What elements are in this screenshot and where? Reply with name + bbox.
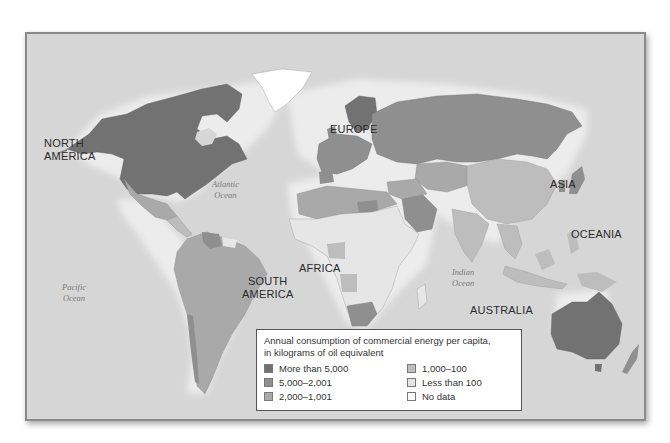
legend-label: 1,000–100 — [422, 363, 467, 374]
label-atlantic-line2: Ocean — [212, 190, 239, 201]
region-madagascar — [417, 284, 427, 309]
label-indian-ocean: Indian Ocean — [452, 267, 474, 289]
label-north-america-line1: NORTH — [44, 137, 96, 150]
region-nigeria — [327, 242, 345, 259]
region-new-zealand — [622, 344, 639, 374]
label-asia: ASIA — [550, 178, 576, 191]
label-europe: EUROPE — [330, 123, 378, 136]
legend-title-line1: Annual consumption of commercial energy … — [264, 335, 514, 347]
legend-item: Less than 100 — [407, 377, 517, 388]
label-indian-line2: Ocean — [452, 278, 474, 289]
legend-swatch — [407, 392, 416, 401]
legend-label: 5,000–2,001 — [279, 377, 332, 388]
label-indian-line1: Indian — [452, 267, 474, 278]
legend-item: More than 5,000 — [264, 363, 407, 374]
legend-swatch — [264, 364, 273, 373]
label-atlantic-ocean: Atlantic Ocean — [212, 179, 239, 201]
legend-item: 5,000–2,001 — [264, 377, 407, 388]
region-south-america — [174, 232, 267, 394]
label-north-america: NORTH AMERICA — [44, 137, 96, 163]
legend-title: Annual consumption of commercial energy … — [264, 335, 514, 358]
label-oceania: OCEANIA — [571, 228, 622, 241]
legend-items: More than 5,0001,000–1005,000–2,001Less … — [264, 363, 514, 402]
legend-label: 2,000–1,001 — [279, 391, 332, 402]
legend-swatch — [407, 378, 416, 387]
label-atlantic-line1: Atlantic — [212, 179, 239, 190]
region-indonesia — [503, 266, 567, 289]
label-south-america-line1: SOUTH — [242, 275, 294, 288]
label-pacific-line2: Ocean — [62, 293, 86, 304]
map-legend: Annual consumption of commercial energy … — [256, 329, 522, 411]
region-tasmania — [595, 364, 602, 372]
region-angola — [340, 274, 357, 292]
region-borneo — [535, 249, 555, 270]
legend-item: 1,000–100 — [407, 363, 517, 374]
legend-swatch — [407, 364, 416, 373]
region-new-guinea — [577, 272, 617, 292]
legend-item: 2,000–1,001 — [264, 391, 407, 402]
label-pacific-ocean: Pacific Ocean — [62, 282, 86, 304]
legend-swatch — [264, 392, 273, 401]
legend-item: No data — [407, 391, 517, 402]
legend-label: Less than 100 — [422, 377, 482, 388]
legend-label: No data — [422, 391, 455, 402]
label-australia: AUSTRALIA — [470, 304, 533, 317]
legend-swatch — [264, 378, 273, 387]
legend-label: More than 5,000 — [279, 363, 348, 374]
label-south-america-line2: AMERICA — [242, 288, 294, 301]
label-north-america-line2: AMERICA — [44, 150, 96, 163]
region-southeast-asia — [497, 224, 522, 259]
label-south-america: SOUTH AMERICA — [242, 275, 294, 301]
label-africa: AFRICA — [299, 262, 341, 275]
label-pacific-line1: Pacific — [62, 282, 86, 293]
legend-title-line2: in kilograms of oil equivalent — [264, 347, 514, 359]
region-iberia — [319, 170, 334, 184]
